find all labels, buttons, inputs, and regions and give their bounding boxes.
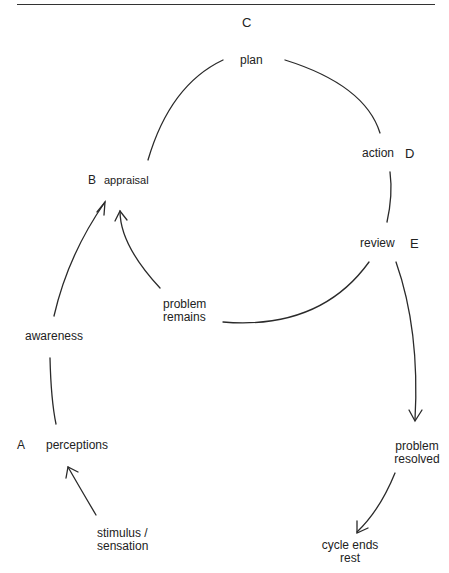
node-review: review xyxy=(360,237,395,250)
label-problem-remains: problem remains xyxy=(163,298,206,324)
label-problem-resolved-line2: resolved xyxy=(384,453,449,466)
edge-review-problem-resolved xyxy=(396,262,416,420)
edge-plan-action xyxy=(285,60,380,133)
edge-awareness-appraisal xyxy=(54,202,105,316)
node-letter-b: B xyxy=(88,174,96,187)
label-stimulus-sensation: stimulus / sensation xyxy=(97,527,148,553)
edge-stimulus-perceptions xyxy=(68,467,96,515)
label-cycle-ends-line2: rest xyxy=(312,552,388,565)
edge-problem-remains-appraisal xyxy=(120,211,160,288)
node-letter-d: D xyxy=(405,147,414,160)
cycle-arcs xyxy=(0,0,449,573)
node-letter-c: C xyxy=(242,16,251,29)
label-awareness: awareness xyxy=(25,330,83,343)
node-action: action xyxy=(362,147,394,160)
node-letter-a: A xyxy=(17,439,25,452)
edge-appraisal-plan xyxy=(148,60,223,160)
node-letter-e: E xyxy=(410,237,419,250)
label-problem-remains-line2: remains xyxy=(163,311,206,324)
label-problem-resolved: problem resolved xyxy=(384,440,449,466)
node-appraisal: appraisal xyxy=(104,174,149,187)
edge-review-problem-remains xyxy=(223,262,369,323)
label-cycle-ends-rest: cycle ends rest xyxy=(312,539,388,565)
edge-action-review xyxy=(387,172,391,222)
node-perceptions: perceptions xyxy=(46,439,108,452)
node-plan: plan xyxy=(240,54,263,67)
arrowhead-icon xyxy=(66,467,78,478)
label-stimulus-line2: sensation xyxy=(97,540,148,553)
edge-problem-resolved-cycle-ends xyxy=(357,473,395,532)
edge-perceptions-awareness xyxy=(50,358,56,424)
